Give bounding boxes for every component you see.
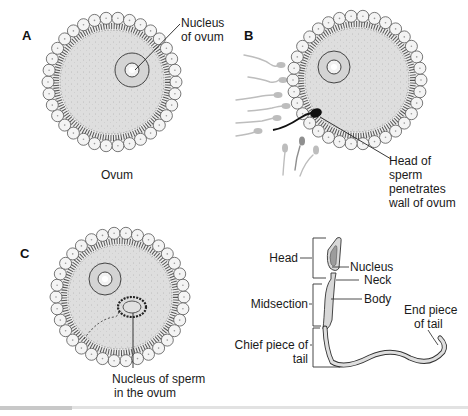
panel-letter-c: C	[20, 246, 29, 261]
label-head-of-sperm-1: Head of	[389, 154, 431, 168]
label-body: Body	[364, 292, 391, 306]
ovum-c	[50, 227, 190, 366]
label-head-of-sperm-2: sperm	[389, 168, 422, 182]
label-head-of-sperm-3: penetrates	[389, 182, 446, 196]
label-nucleus: Nucleus	[350, 260, 393, 274]
caption-ovum: Ovum	[101, 168, 133, 182]
label-neck: Neck	[364, 273, 391, 287]
panel-letter-a: A	[22, 28, 31, 43]
label-chief-piece-2: tail	[250, 352, 308, 366]
label-nucleus-of-sperm-2: in the ovum	[114, 386, 176, 400]
label-nucleus-of-sperm-1: Nucleus of sperm	[112, 372, 205, 386]
label-end-piece-2: of tail	[414, 317, 443, 331]
label-head: Head	[240, 251, 298, 265]
label-chief-piece-1: Chief piece of	[222, 338, 308, 352]
label-nucleus-of-ovum-2: of ovum	[181, 30, 224, 44]
label-end-piece-1: End piece	[404, 303, 457, 317]
ovum-a	[42, 12, 182, 151]
label-head-of-sperm-4: wall of ovum	[389, 196, 456, 210]
label-midsection: Midsection	[230, 297, 308, 311]
label-nucleus-of-ovum-1: Nucleus	[181, 16, 224, 30]
bottom-divider-accent	[0, 406, 72, 410]
panel-letter-b: B	[244, 28, 253, 43]
ovum-b	[287, 10, 427, 149]
